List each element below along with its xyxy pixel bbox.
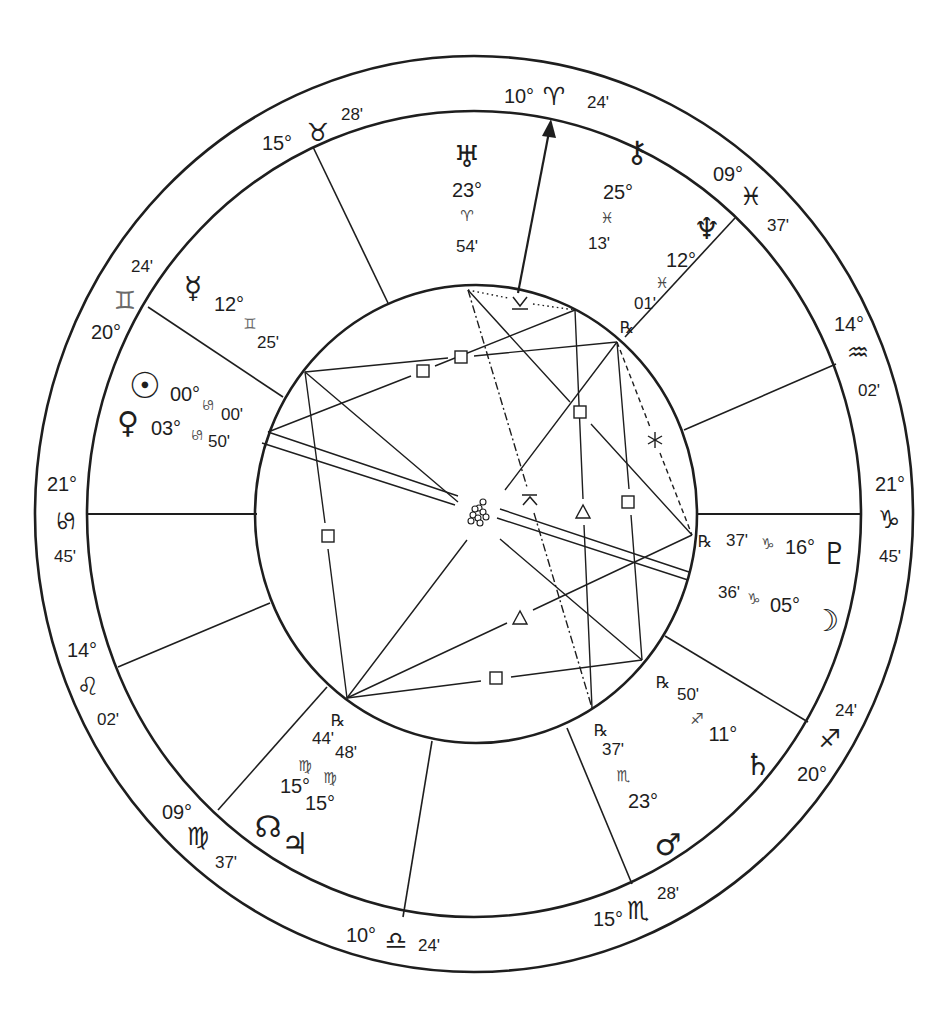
cancer-icon: ♋︎ [51, 510, 80, 532]
cancer-icon: ♋︎ [188, 428, 206, 441]
minutes: 45' [879, 547, 901, 566]
planet-jupiter: 48' ♍︎ 15° ♃︎ [282, 743, 358, 860]
capricorn-icon: ♑︎ [761, 535, 774, 553]
minutes: 50' [677, 685, 699, 704]
venus-icon: ♀︎ [117, 405, 139, 440]
retrograde-icon: ℞ [620, 318, 634, 337]
cusp-label-11: 15° ♉︎ 28' [262, 105, 363, 154]
square-icon [622, 496, 634, 508]
square-icon [490, 672, 502, 684]
degree: 11° [709, 723, 738, 745]
gemini-icon: ♊︎ [114, 286, 136, 315]
retrograde-icon: ℞ [698, 532, 712, 551]
sagittarius-icon: ♐︎ [819, 724, 841, 753]
cusp-11-line [313, 147, 388, 303]
minutes: 45' [54, 547, 76, 566]
cusp-label-mc: 10° ♈︎ 24' [504, 82, 609, 112]
cusp-label-asc: 21° ♋︎ 45' [47, 473, 80, 566]
degree: 15° [305, 792, 335, 814]
cusp-label-6: 24' ♐︎ 20° [797, 701, 857, 785]
cusp-label-9: 09° ♓︎ 37' [713, 163, 789, 235]
trine-icon [576, 505, 590, 518]
minutes: 54' [456, 237, 478, 256]
planet-labels: ♅︎ 23° ♈︎ 54' ⚷︎ 25° ♓︎ 13' ♆︎ 12° ♓︎ 01… [117, 134, 848, 862]
square-icon [417, 365, 429, 377]
minutes: 28' [341, 105, 363, 124]
minutes: 02' [858, 381, 880, 400]
natal-chart-wheel: 10° ♈︎ 24' 15° ♉︎ 28' 24' ♊︎ 20° 21° ♋︎ … [0, 0, 945, 1009]
aries-icon: ♈︎ [460, 207, 473, 225]
chiron-icon: ⚷︎ [626, 134, 648, 169]
north-node-icon: ☊︎ [255, 809, 282, 844]
taurus-icon: ♉︎ [307, 118, 329, 147]
minutes: 02' [97, 710, 119, 729]
retrograde-icon: ℞ [331, 711, 345, 730]
aries-icon: ♈︎ [543, 82, 565, 111]
minutes: 50' [208, 432, 230, 451]
mc-arrowhead-icon [542, 119, 556, 138]
degree: 15° [593, 908, 623, 930]
scorpio-icon: ♏︎ [627, 896, 649, 925]
square-icon [574, 406, 586, 418]
degree: 12° [214, 293, 244, 315]
minutes: 24' [418, 936, 440, 955]
cusp-label-5: 15° ♏︎ 28' [593, 884, 679, 930]
neptune-icon: ♆︎ [694, 211, 721, 246]
cusp-label-dsc: 21° ♑︎ 45' [875, 473, 905, 566]
degree: 10° [346, 924, 376, 946]
libra-icon: ♎︎ [385, 926, 407, 955]
virgo-icon: ♍︎ [298, 757, 311, 775]
mercury-icon: ☿︎ [184, 270, 202, 305]
degree: 25° [603, 181, 633, 203]
square-icon [455, 351, 467, 363]
degree: 09° [162, 801, 192, 823]
semisextile-icon [512, 297, 528, 309]
cusp-6-line [665, 636, 808, 722]
capricorn-icon: ♑︎ [747, 590, 760, 608]
jupiter-icon: ♃︎ [282, 826, 309, 861]
planet-sun: ☉︎ 00° ♋︎ 00' [129, 365, 243, 424]
saturn-icon: ♄︎ [745, 747, 772, 782]
uranus-icon: ♅︎ [454, 139, 481, 174]
pisces-icon: ♓︎ [600, 209, 613, 227]
degree: 09° [713, 163, 743, 185]
degree: 16° [785, 536, 815, 558]
minutes: 37' [215, 853, 237, 872]
cusp-label-12: 24' ♊︎ 20° [91, 257, 153, 343]
planet-moon: 36' ♑︎ 05° ☽︎ [718, 583, 840, 637]
degree: 14° [67, 639, 97, 661]
trine-icon [513, 611, 527, 624]
virgo-icon: ♍︎ [187, 822, 209, 851]
minutes: 00' [221, 405, 243, 424]
minutes: 48' [335, 743, 357, 762]
leo-icon: ♌︎ [77, 672, 99, 701]
minutes: 24' [587, 93, 609, 112]
aspect-glyphs [322, 297, 662, 684]
minutes: 25' [257, 333, 279, 352]
minutes: 37' [767, 216, 789, 235]
planet-uranus: ♅︎ 23° ♈︎ 54' [452, 139, 482, 257]
square-icon [322, 530, 334, 542]
degree: 23° [452, 179, 482, 201]
cusp-label-3: 09° ♍︎ 37' [162, 801, 237, 872]
degree: 03° [151, 417, 181, 439]
cusp-8-line [684, 364, 836, 430]
cusp-2-line [118, 603, 270, 667]
degree: 20° [91, 321, 121, 343]
retrograde-icon: ℞ [656, 673, 670, 692]
cusp-label-ic: 10° ♎︎ 24' [346, 924, 440, 955]
degree: 21° [47, 473, 77, 495]
degree: 15° [262, 132, 292, 154]
minutes: 24' [835, 701, 857, 720]
degree: 12° [666, 249, 696, 271]
mc-line [518, 132, 549, 293]
ic-line [403, 741, 432, 917]
opposition-icon [468, 499, 489, 526]
virgo-icon: ♍︎ [323, 769, 336, 787]
pisces-icon: ♓︎ [740, 182, 762, 211]
sagittarius-icon: ♐︎ [690, 710, 703, 728]
minutes: 37' [726, 531, 748, 550]
minutes: 37' [602, 740, 624, 759]
degree: 14° [834, 313, 864, 335]
planet-neptune: ♆︎ 12° ♓︎ 01' ℞ [620, 211, 721, 337]
